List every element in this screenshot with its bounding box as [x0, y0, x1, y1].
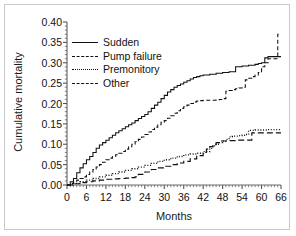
- series-line-premonitory: [67, 130, 281, 185]
- legend-swatch-dotted: [72, 64, 98, 74]
- legend-swatch-dashed: [72, 51, 98, 61]
- legend-label: Premonitory: [103, 63, 160, 75]
- legend-label: Other: [103, 77, 129, 89]
- survival-curve-chart: Cumulative mortality 0.000.050.100.150.2…: [0, 0, 296, 236]
- legend: SuddenPump failurePremonitoryOther: [72, 36, 162, 90]
- series-line-other: [67, 133, 281, 185]
- legend-item: Sudden: [72, 36, 162, 48]
- legend-label: Pump failure: [103, 50, 162, 62]
- legend-item: Premonitory: [72, 63, 162, 75]
- legend-item: Pump failure: [72, 50, 162, 62]
- legend-item: Other: [72, 77, 162, 89]
- legend-swatch-longdash: [72, 78, 98, 88]
- legend-swatch-solid: [72, 37, 98, 47]
- legend-label: Sudden: [103, 36, 139, 48]
